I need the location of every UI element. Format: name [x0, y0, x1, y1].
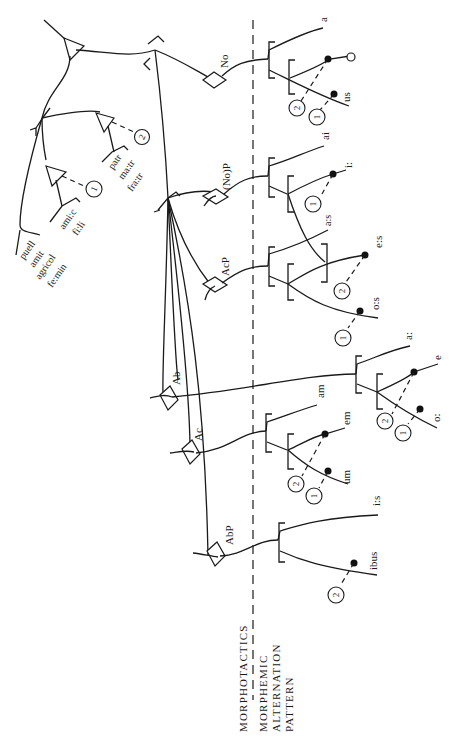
- ending-o: o:: [430, 413, 442, 422]
- amic-dashed-link: [62, 176, 84, 186]
- fan-to-ab: [163, 198, 168, 395]
- abp-to-ibus: [280, 551, 377, 575]
- nop-to-ai: [268, 146, 324, 176]
- label-morphotactics: MORPHOTACTICS: [237, 624, 249, 732]
- top-and-triangle: [64, 38, 84, 60]
- nop-to-inner: [269, 186, 287, 194]
- ac-to-right: [196, 431, 266, 453]
- case-no: No: [218, 54, 230, 68]
- ac-dashed-1: [319, 471, 328, 488]
- triangle-to-node: [76, 50, 155, 54]
- label-pattern: PATTERN: [283, 676, 295, 732]
- fan-to-acp: [168, 198, 210, 284]
- triangle-down-line: [42, 56, 70, 118]
- no-to-circle: [290, 56, 350, 78]
- ending-a-long: a:: [402, 332, 414, 340]
- ending-am: am: [314, 384, 326, 398]
- ac-to-am: [266, 405, 317, 431]
- mid-node-to-puell: [20, 118, 42, 235]
- no-dashed-2: [301, 59, 328, 101]
- abp-bracket-outer: [279, 523, 285, 562]
- acp-bracket-right: [321, 244, 327, 282]
- amic-triangle-stem: [56, 180, 62, 206]
- ending-as: a:s: [322, 215, 333, 226]
- mid-node-down: [42, 118, 46, 160]
- no-to-us: [269, 70, 349, 106]
- hollow-dot-no: [347, 53, 355, 61]
- case-ab: Ab: [170, 371, 182, 385]
- case-nop: (No)P: [220, 163, 233, 190]
- ab-dashed-2: [392, 372, 414, 414]
- no-to-a: [268, 28, 323, 59]
- label-alternation: ALTERNATION: [270, 643, 282, 732]
- svg-text:1: 1: [338, 336, 348, 341]
- ending-um: um: [340, 470, 352, 485]
- ending-os: o:s: [369, 297, 381, 310]
- svg-text:2: 2: [337, 289, 347, 294]
- ending-em: em: [340, 411, 352, 425]
- no-dashed-1: [320, 94, 334, 110]
- ending-us: us: [340, 92, 352, 102]
- ab-dashed-1: [408, 409, 420, 424]
- patr-triangle: [96, 113, 114, 132]
- svg-text:1: 1: [398, 431, 408, 436]
- ending-i: i:: [342, 162, 354, 168]
- svg-text:2: 2: [331, 593, 341, 598]
- ending-ibus: ibus: [367, 552, 379, 570]
- case-acp: AcP: [219, 257, 231, 276]
- case-ac: Ac: [192, 428, 204, 441]
- abp-dashed-2: [340, 563, 354, 586]
- top-input-line: [44, 20, 66, 40]
- label-morphemic: MORPHEMIC: [257, 655, 269, 732]
- relational-network-diagram: 2 patr ma:tr fra:tr 1 ami:c fi:li puell …: [0, 0, 449, 739]
- ending-e: e: [431, 355, 443, 360]
- top-node-down: [155, 50, 168, 198]
- diamond-no: [203, 72, 226, 88]
- svg-text:1: 1: [309, 494, 319, 499]
- ab-bracket-outer: [356, 356, 362, 393]
- patr-dashed-link: [112, 122, 134, 132]
- ending-es: e:s: [372, 236, 384, 248]
- svg-text:2: 2: [291, 482, 301, 487]
- abp-to-is: [278, 515, 378, 540]
- ac-to-em: [288, 428, 345, 450]
- svg-text:1: 1: [308, 202, 318, 207]
- ab-to-right: [172, 374, 356, 397]
- ab-to-e: [377, 364, 438, 392]
- ac-bracket-outer: [266, 414, 272, 452]
- svg-text:2: 2: [292, 106, 302, 111]
- top-node-to-no: [155, 50, 210, 78]
- nop-to-i: [288, 170, 346, 194]
- svg-text:1: 1: [312, 115, 322, 120]
- case-abp: AbP: [223, 525, 235, 545]
- acp-to-inner: [269, 276, 288, 284]
- ab-to-a: [356, 346, 410, 374]
- ab-to-inner: [357, 384, 377, 392]
- acp-to-as: [268, 230, 328, 266]
- ending-ai: ai: [319, 132, 331, 140]
- ending-a: a: [317, 17, 329, 22]
- mid-node-bracket: [30, 108, 50, 136]
- svg-text:2: 2: [380, 419, 390, 424]
- mid-node-to-triangle-2: [42, 111, 100, 118]
- acp-to-os: [288, 284, 378, 318]
- acp-dashed-2: [346, 255, 365, 282]
- ac-to-inner: [267, 442, 287, 450]
- ending-is: i:s: [370, 496, 382, 506]
- patr-triangle-stem: [108, 126, 114, 152]
- fan-to-ac-line: [168, 198, 190, 450]
